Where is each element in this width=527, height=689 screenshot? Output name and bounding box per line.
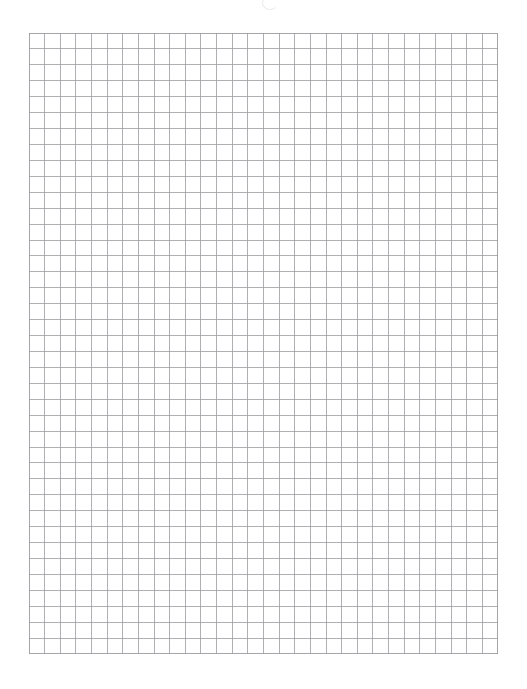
grid-vertical-lines — [29, 33, 497, 654]
page-canvas — [0, 0, 527, 689]
graph-paper-grid — [29, 33, 498, 654]
faint-mark-icon — [262, 0, 278, 10]
grid-lines-svg — [29, 33, 498, 654]
